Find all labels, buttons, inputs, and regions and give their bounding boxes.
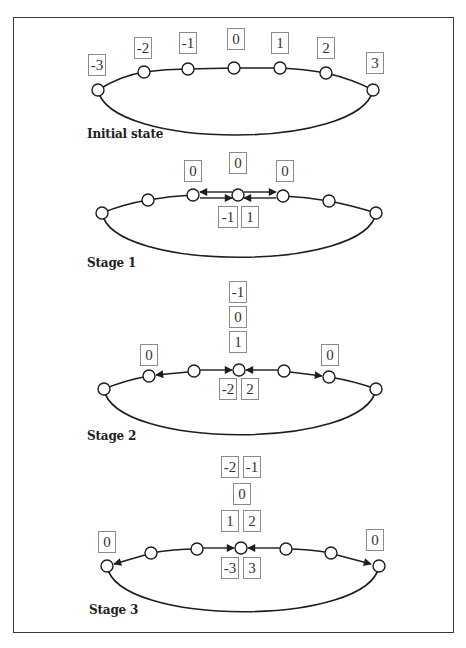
stage-label-3: Stage 3 [89,603,138,617]
node-label: 2 [243,510,261,532]
node-label: -1 [179,32,197,54]
node-label: 1 [271,32,289,54]
node-label: 2 [317,37,335,59]
node-label: 0 [184,160,202,182]
node-label: -3 [88,54,106,76]
node-label: -2 [134,37,152,59]
stage2-ring [104,376,376,435]
node-label: 0 [140,344,158,366]
stage-label-1: Stage 1 [87,256,136,270]
node-label: 0 [276,160,294,182]
node-label: 3 [243,557,261,579]
stage-label-2: Stage 2 [87,429,136,443]
stage-label-initial: Initial state [87,127,163,141]
node-label: -1 [218,206,238,228]
node-label: 1 [221,510,239,532]
node-label: 0 [366,529,384,551]
node-label: 1 [229,331,247,353]
node-label: -1 [243,456,261,478]
initial-state-ring [98,68,373,135]
stage1-nodes [96,189,382,219]
node-label: 2 [241,378,259,400]
node-label: -3 [221,557,239,579]
node-label: -1 [229,281,247,303]
node-label: 3 [366,52,384,74]
node-label: -2 [221,456,239,478]
node-label: 1 [241,206,259,228]
node-label: 0 [321,344,339,366]
node-label: 0 [233,483,251,505]
node-label: 0 [98,531,116,553]
node-label: -2 [219,378,237,400]
node-label: 0 [227,28,245,50]
node-label: 0 [229,152,247,174]
node-label: 0 [229,306,247,328]
initial-state-nodes [92,62,379,96]
